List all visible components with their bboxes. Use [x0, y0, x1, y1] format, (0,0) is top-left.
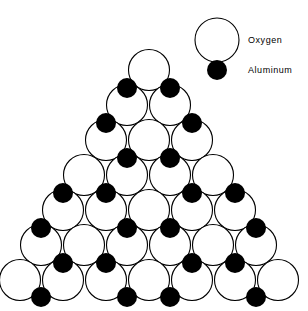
aluminum-ion — [160, 218, 180, 238]
aluminum-ion — [117, 218, 137, 238]
aluminum-ion — [160, 78, 180, 98]
legend-label: Oxygen — [248, 35, 282, 45]
aluminum-ion — [53, 183, 73, 203]
aluminum-ion — [117, 287, 137, 307]
aluminum-ion — [182, 183, 202, 203]
aluminum-ion — [117, 78, 137, 98]
aluminum-ion — [117, 148, 137, 168]
aluminum-ion — [31, 218, 51, 238]
aluminum-ion — [182, 253, 202, 273]
aluminum-ion — [160, 287, 180, 307]
lattice-diagram-canvas: OxygenAluminum — [0, 0, 308, 311]
aluminum-ion — [225, 183, 245, 203]
aluminum-ion — [96, 183, 116, 203]
legend-label: Aluminum — [248, 65, 292, 75]
aluminum-ion — [246, 287, 266, 307]
aluminum-ion — [182, 113, 202, 133]
aluminum-ion — [31, 287, 51, 307]
structure-diagram-figure: OxygenAluminum — [0, 0, 308, 311]
aluminum-ion — [246, 218, 266, 238]
aluminum-ion — [96, 253, 116, 273]
aluminum-ion — [96, 113, 116, 133]
aluminum-dot-icon — [207, 60, 227, 80]
aluminum-ion — [53, 253, 73, 273]
aluminum-ion — [160, 148, 180, 168]
aluminum-ion — [225, 253, 245, 273]
oxygen-circle-icon — [195, 18, 239, 62]
